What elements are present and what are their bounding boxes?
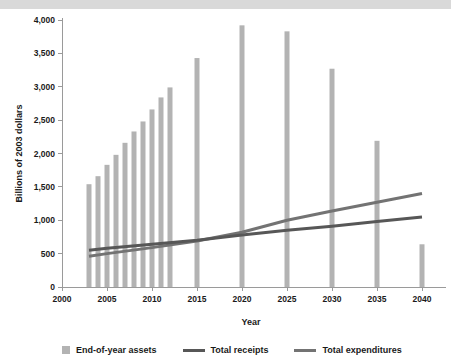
bar xyxy=(123,143,128,287)
legend-swatch-line-icon xyxy=(183,349,205,352)
x-axis-tick-labels: 200020052010201520202025203020352040 xyxy=(53,294,432,304)
x-tick-label: 2000 xyxy=(53,294,72,304)
bar xyxy=(330,69,335,287)
legend-swatch-square-icon xyxy=(62,346,70,354)
top-banner xyxy=(0,0,451,9)
line-series-total-receipts xyxy=(89,217,422,250)
bar xyxy=(87,184,92,287)
bar xyxy=(195,58,200,287)
y-tick-label: 2,500 xyxy=(34,115,56,125)
bar xyxy=(159,97,164,287)
x-tick-label: 2035 xyxy=(368,294,387,304)
bar xyxy=(105,165,110,287)
bar xyxy=(168,87,173,287)
x-tick-label: 2030 xyxy=(323,294,342,304)
y-tick-label: 0 xyxy=(50,282,55,292)
bar-series-end-of-year-assets xyxy=(87,25,425,287)
y-tick-label: 3,000 xyxy=(34,82,56,92)
bar xyxy=(96,176,101,287)
bar xyxy=(285,31,290,287)
legend-item-total-expenditures: Total expenditures xyxy=(294,345,401,355)
bar xyxy=(132,131,137,287)
y-axis-ticks xyxy=(58,20,62,287)
y-axis-tick-labels: 05001,0001,5002,0002,5003,0003,5004,000 xyxy=(34,15,56,292)
bar xyxy=(420,244,425,287)
x-tick-label: 2005 xyxy=(98,294,117,304)
y-tick-label: 500 xyxy=(41,249,55,259)
legend-swatch-line-icon xyxy=(294,349,316,352)
y-axis-title: Billions of 2003 dollars xyxy=(14,104,24,202)
chart-figure: 05001,0001,5002,0002,5003,0003,5004,000 … xyxy=(0,9,451,357)
x-tick-label: 2025 xyxy=(278,294,297,304)
legend-item-total-receipts: Total receipts xyxy=(183,345,269,355)
x-axis-title: Year xyxy=(241,317,261,327)
x-tick-label: 2040 xyxy=(413,294,432,304)
y-tick-label: 2,000 xyxy=(34,149,56,159)
legend-label: End-of-year assets xyxy=(76,345,157,355)
chart-legend: End-of-year assets Total receipts Total … xyxy=(0,339,451,357)
x-tick-label: 2015 xyxy=(188,294,207,304)
legend-label: Total expenditures xyxy=(322,345,401,355)
legend-label: Total receipts xyxy=(211,345,269,355)
bar xyxy=(375,141,380,287)
y-tick-label: 1,500 xyxy=(34,182,56,192)
x-tick-label: 2010 xyxy=(143,294,162,304)
chart-plot-area: 05001,0001,5002,0002,5003,0003,5004,000 … xyxy=(0,9,451,329)
legend-item-end-of-year-assets: End-of-year assets xyxy=(62,345,157,355)
x-axis-ticks xyxy=(62,287,422,291)
bar xyxy=(150,109,155,287)
y-tick-label: 1,000 xyxy=(34,215,56,225)
y-tick-label: 3,500 xyxy=(34,48,56,58)
x-tick-label: 2020 xyxy=(233,294,252,304)
bar xyxy=(114,155,119,287)
bar xyxy=(141,121,146,287)
bar xyxy=(240,25,245,287)
y-tick-label: 4,000 xyxy=(34,15,56,25)
